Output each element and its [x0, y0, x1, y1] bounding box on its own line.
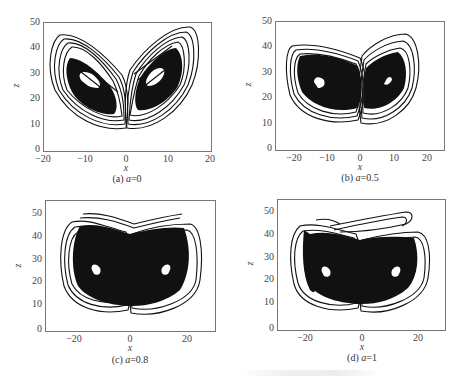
xtick: 10 [156, 153, 180, 164]
y-axis-label: z [242, 83, 253, 87]
panel-d: 50 40 30 20 10 0 −20 0 20 x z (d) a=1 [230, 190, 460, 380]
ytick: 20 [250, 91, 272, 102]
panel-a: 50 40 30 20 10 0 −20 −10 0 10 20 x z (a)… [0, 0, 230, 190]
ytick: 50 [20, 207, 42, 218]
panel-c: 50 40 30 20 10 0 −20 0 20 x z (c) a=0.8 [0, 190, 230, 380]
xtick: 20 [198, 153, 222, 164]
xtick: −20 [62, 333, 86, 344]
ytick: 20 [18, 92, 40, 103]
ytick: 40 [18, 41, 40, 52]
x-axis-label: x [120, 342, 140, 353]
ytick: 10 [18, 118, 40, 129]
y-axis-label: z [244, 262, 255, 266]
ytick: 0 [20, 323, 42, 334]
xtick: 10 [382, 152, 406, 163]
xtick: 20 [406, 332, 430, 343]
y-axis-label: z [12, 264, 23, 268]
panel-caption: (d) a=1 [312, 352, 412, 363]
panel-caption: (a) a=0 [77, 173, 177, 184]
ytick: 40 [252, 228, 274, 239]
ytick: 10 [250, 117, 272, 128]
x-axis-label: x [352, 341, 372, 352]
ytick: 50 [252, 205, 274, 216]
ytick: 20 [20, 275, 42, 286]
xtick: −10 [73, 153, 97, 164]
x-axis-label: x [116, 162, 136, 173]
xtick: 20 [175, 333, 199, 344]
ytick: 30 [18, 67, 40, 78]
ytick: 0 [250, 142, 272, 153]
ytick: 30 [250, 66, 272, 77]
ytick: 30 [252, 251, 274, 262]
ytick: 40 [250, 40, 272, 51]
ytick: 50 [18, 16, 40, 27]
ytick: 0 [252, 322, 274, 333]
panel-caption: (b) a=0.5 [310, 172, 410, 183]
panel-caption: (c) a=0.8 [80, 354, 180, 365]
ytick: 30 [20, 253, 42, 264]
panel-b: 50 40 30 20 10 0 −20 −10 0 10 20 x z (b)… [230, 0, 460, 190]
y-axis-label: z [10, 84, 21, 88]
xtick: −20 [282, 152, 306, 163]
ytick: 40 [20, 230, 42, 241]
ytick: 10 [20, 298, 42, 309]
ytick: 50 [250, 15, 272, 26]
ytick: 20 [252, 273, 274, 284]
xtick: 20 [415, 152, 439, 163]
x-axis-label: x [350, 161, 370, 172]
cropped-caption-line [240, 370, 380, 376]
xtick: −10 [315, 152, 339, 163]
ytick: 10 [252, 296, 274, 307]
xtick: −20 [31, 153, 55, 164]
xtick: −20 [293, 332, 317, 343]
